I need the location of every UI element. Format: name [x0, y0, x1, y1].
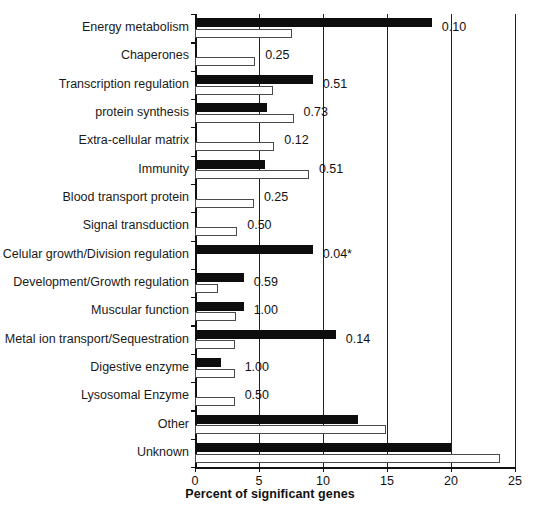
category-label: Digestive enzyme — [0, 360, 189, 374]
category-label: Energy metabolism — [0, 20, 189, 34]
category-label: Chaperones — [0, 48, 189, 62]
category-label: Extra-cellular matrix — [0, 133, 189, 147]
category-label: Celular growth/Division regulation — [0, 247, 189, 261]
category-label: Signal transduction — [0, 218, 189, 232]
category-label: Muscular function — [0, 303, 189, 317]
x-axis-title: Percent of significant genes — [0, 487, 540, 501]
category-label: Blood transport protein — [0, 190, 189, 204]
category-label: Unknown — [0, 445, 189, 459]
category-labels: Energy metabolismChaperonesTranscription… — [0, 0, 540, 517]
category-label: Lysosomal Enzyme — [0, 388, 189, 402]
category-label: protein synthesis — [0, 105, 189, 119]
category-label: Immunity — [0, 162, 189, 176]
category-label: Transcription regulation — [0, 77, 189, 91]
category-label: Development/Growth regulation — [0, 275, 189, 289]
category-label: Other — [0, 417, 189, 431]
category-label: Metal ion transport/Sequestration — [0, 332, 189, 346]
bar-chart: 0510152025 0.100.250.510.730.120.510.250… — [0, 0, 540, 517]
